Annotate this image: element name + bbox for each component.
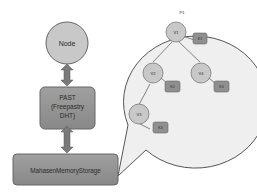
svg-text:PAST: PAST [59,94,76,101]
tree-node-v4: V4 [191,63,211,83]
tree-key-k3: K3 [153,122,168,133]
tree-node-v1: V1 [166,22,186,42]
svg-text:DHT): DHT) [60,112,76,120]
svg-text:MahasenMemoryStorage: MahasenMemoryStorage [30,167,101,175]
svg-text:K3: K3 [158,126,162,130]
svg-text:V3: V3 [137,112,143,117]
svg-text:K2: K2 [170,85,174,89]
svg-text:Node: Node [59,40,76,47]
callout-title: P1 [180,10,186,15]
node-circle: Node [46,22,88,64]
tree-key-k1: K1 [193,33,207,44]
tree-key-k2: K2 [165,81,180,92]
svg-text:(Freepastry: (Freepastry [51,103,85,111]
svg-text:V4: V4 [199,71,205,76]
tree-key-k4: K4 [214,81,229,92]
architecture-diagram: P1 V1 K1 V2 K2 V4 K4 V3 K3 [0,0,257,192]
svg-text:K4: K4 [219,85,223,89]
mahasen-memory-storage-box: MahasenMemoryStorage [13,154,118,185]
tree-node-v2: V2 [143,63,163,83]
svg-text:V1: V1 [174,30,180,35]
svg-text:V2: V2 [151,71,157,76]
double-arrow-icon [61,126,73,153]
past-dht-box: PAST (Freepastry DHT) [40,87,95,129]
tree-node-v3: V3 [129,104,149,124]
double-arrow-icon [61,64,73,86]
svg-text:K1: K1 [198,37,202,41]
